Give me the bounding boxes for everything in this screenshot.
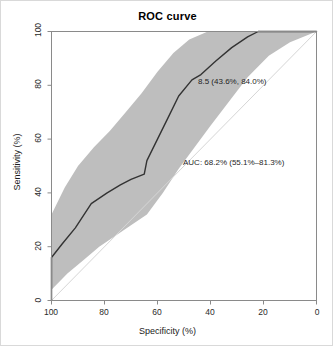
x-tick-40: 40 xyxy=(197,307,223,317)
y-axis-label: Sensitivity (%) xyxy=(12,102,22,222)
y-tick-0: 0 xyxy=(33,289,43,311)
y-tick-40: 40 xyxy=(33,181,43,203)
y-tick-100: 100 xyxy=(33,19,43,41)
y-tick-80: 80 xyxy=(33,73,43,95)
x-tick-80: 80 xyxy=(91,307,117,317)
y-tick-20: 20 xyxy=(33,235,43,257)
roc-plot-area xyxy=(1,1,333,346)
auc-annotation: AUC: 68.2% (55.1%–81.3%) xyxy=(183,158,284,167)
threshold-annotation: 8.5 (43.6%, 84.0%) xyxy=(198,77,266,86)
x-tick-60: 60 xyxy=(144,307,170,317)
x-axis-label: Specificity (%) xyxy=(1,326,333,336)
x-tick-20: 20 xyxy=(250,307,276,317)
x-tick-0: 0 xyxy=(304,307,330,317)
plot-panel xyxy=(48,32,317,305)
y-tick-60: 60 xyxy=(33,127,43,149)
roc-chart-figure: ROC curve 100 80 60 40 20 0 0 20 40 60 8… xyxy=(0,0,333,346)
